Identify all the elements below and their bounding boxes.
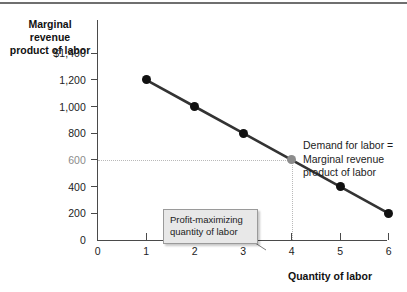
profit-maximizing-callout: Profit-maximizing quantity of labor <box>163 209 258 244</box>
demand-label-line-1: Demand for labor = <box>303 139 393 153</box>
x-axis-title: Quantity of labor <box>288 270 372 282</box>
demand-label-line-2: Marginal revenue <box>303 153 393 167</box>
demand-label-line-3: product of labor <box>303 166 393 180</box>
callout-line-1: Profit-maximizing <box>170 214 252 226</box>
chart-figure: Marginal revenue product of labor $1,400… <box>0 0 407 292</box>
callout-line-2: quantity of labor <box>170 226 252 238</box>
data-point <box>384 209 393 218</box>
demand-curve-label: Demand for labor = Marginal revenue prod… <box>303 139 393 180</box>
data-point <box>336 182 345 191</box>
data-point <box>142 75 151 84</box>
data-point <box>239 129 248 138</box>
